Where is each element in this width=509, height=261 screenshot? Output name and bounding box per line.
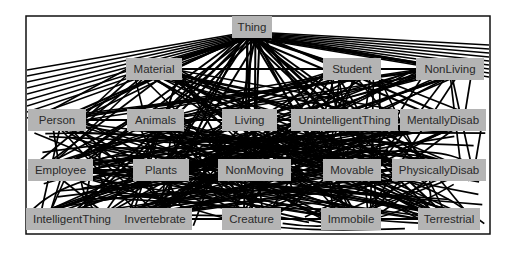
node-immobile[interactable]: Immobile: [321, 208, 381, 230]
node-movable[interactable]: Movable: [323, 159, 381, 181]
node-living[interactable]: Living: [222, 109, 277, 131]
node-animals[interactable]: Animals: [127, 109, 184, 131]
node-invertebrate[interactable]: Invertebrate: [118, 208, 192, 230]
node-thing[interactable]: Thing: [232, 16, 272, 38]
node-nonmoving[interactable]: NonMoving: [218, 159, 291, 181]
node-creature[interactable]: Creature: [222, 208, 281, 230]
node-physicallydisab[interactable]: PhysicallyDisab: [392, 159, 486, 181]
node-intelligentthing[interactable]: IntelligentThing: [26, 208, 118, 230]
node-employee[interactable]: Employee: [28, 159, 93, 181]
node-nonliving[interactable]: NonLiving: [416, 58, 484, 80]
node-student[interactable]: Student: [323, 58, 381, 80]
node-mentallydisab[interactable]: MentallyDisab: [400, 109, 486, 131]
node-unintelligentthing[interactable]: UnintelligentThing: [291, 109, 398, 131]
node-plants[interactable]: Plants: [133, 159, 189, 181]
node-terrestrial[interactable]: Terrestrial: [418, 208, 480, 230]
node-person[interactable]: Person: [28, 109, 86, 131]
node-material[interactable]: Material: [126, 58, 182, 80]
